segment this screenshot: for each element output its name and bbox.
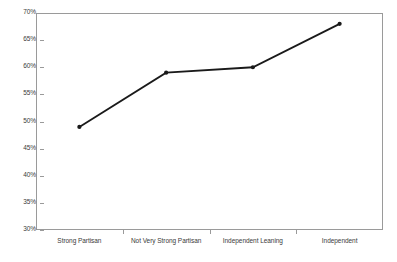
line-chart: 70%65%60%55%50%45%40%35%30% Strong Parti… — [0, 0, 397, 262]
y-tick-label: 30% — [23, 225, 36, 232]
y-tick-mark — [40, 13, 44, 14]
y-tick-mark — [40, 122, 44, 123]
y-tick-label: 60% — [23, 62, 36, 69]
y-tick-label: 50% — [23, 117, 36, 124]
plot-area — [36, 13, 383, 230]
x-axis-label: Strong Partisan — [36, 237, 123, 244]
y-tick-label: 55% — [23, 89, 36, 96]
x-axis-label: Independent Leaning — [210, 237, 297, 244]
y-tick-mark — [40, 40, 44, 41]
x-axis-separator — [210, 230, 211, 234]
y-tick-mark — [40, 203, 44, 204]
y-tick-mark — [40, 67, 44, 68]
y-tick-label: 65% — [23, 35, 36, 42]
y-tick-mark — [40, 176, 44, 177]
y-tick-mark — [40, 149, 44, 150]
y-tick-mark — [40, 230, 44, 231]
y-tick-label: 40% — [23, 171, 36, 178]
x-axis-label: Independent — [296, 237, 383, 244]
x-axis-separator — [123, 230, 124, 234]
x-axis-label: Not Very Strong Partisan — [123, 237, 210, 244]
y-tick-mark — [40, 94, 44, 95]
y-tick-label: 45% — [23, 144, 36, 151]
x-axis-separator — [296, 230, 297, 234]
y-tick-label: 70% — [23, 8, 36, 15]
y-tick-label: 35% — [23, 198, 36, 205]
